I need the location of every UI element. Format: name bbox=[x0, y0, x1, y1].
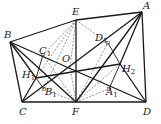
segment-B-E bbox=[10, 20, 76, 42]
label-H1: H1 bbox=[21, 69, 35, 82]
label-F: F bbox=[71, 106, 80, 117]
segment-A-D bbox=[142, 12, 146, 102]
segment-F-D1 bbox=[76, 43, 108, 102]
segment-D1-H2 bbox=[108, 43, 120, 64]
label-A: A bbox=[142, 0, 150, 11]
label-B: B bbox=[3, 29, 11, 40]
label-O: O bbox=[62, 53, 70, 64]
segment-C-A bbox=[22, 12, 142, 102]
label-A1: A1 bbox=[105, 86, 118, 99]
label-B1: B1 bbox=[44, 86, 57, 99]
solid-lines bbox=[10, 12, 146, 102]
geometry-diagram: ABCDEFOH1H2C1D1B1A1 bbox=[0, 0, 161, 124]
label-C: C bbox=[19, 106, 27, 117]
segment-H1-H2 bbox=[36, 64, 120, 78]
label-E: E bbox=[71, 6, 80, 17]
label-H2: H2 bbox=[121, 63, 135, 76]
label-D: D bbox=[142, 106, 151, 117]
